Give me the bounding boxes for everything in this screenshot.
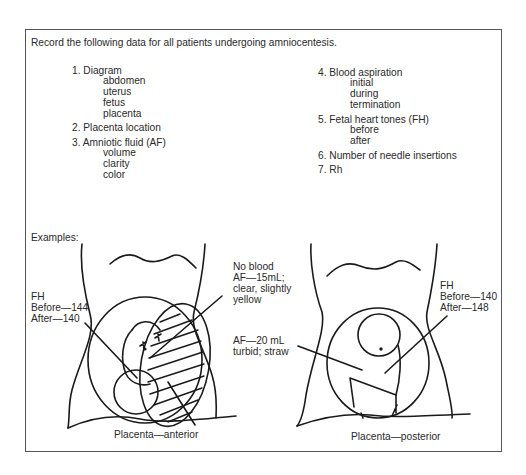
needle-marks — [140, 334, 161, 349]
posterior-caption: Placenta—posterior — [351, 432, 440, 443]
fh-pointer-2 — [385, 316, 447, 373]
anterior-caption: Placenta—anterior — [114, 430, 198, 441]
fetus-head-2 — [358, 314, 400, 356]
posterior-example-drawing — [297, 244, 470, 426]
chest-line-2 — [327, 261, 420, 276]
fetal-dot — [144, 348, 146, 350]
anterior-fh-after: After—140 — [31, 314, 80, 325]
uterus — [88, 297, 202, 423]
af-pointer-2 — [298, 346, 362, 370]
abdomen-left-outline — [68, 244, 91, 428]
fetal-dot-2 — [380, 348, 382, 350]
posterior-fh-after: After—148 — [440, 303, 489, 314]
illustrations — [0, 0, 526, 475]
chest-line — [110, 255, 196, 268]
posterior-af-line: turbid; straw — [233, 347, 288, 358]
fetus-body-2 — [350, 345, 400, 407]
pelvic-line-2 — [297, 414, 470, 426]
fh-pointer — [85, 323, 137, 378]
af-needle-line — [150, 296, 222, 358]
anterior-note-line: yellow — [233, 295, 261, 306]
abdomen-left-outline-2 — [297, 244, 323, 426]
anterior-example-drawing — [68, 244, 236, 432]
